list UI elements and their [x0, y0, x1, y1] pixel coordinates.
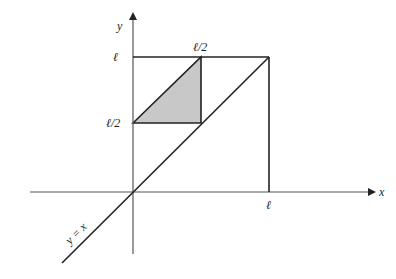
- y-tick-ell: ℓ: [113, 50, 118, 64]
- y-axis-label: y: [116, 19, 123, 33]
- y-equals-x-line: [62, 57, 269, 263]
- shaded-triangle: [133, 57, 201, 123]
- y-axis-arrow-icon: [129, 12, 137, 20]
- x-tick-ell: ℓ: [266, 198, 271, 212]
- diagram-canvas: y x ℓ ℓ/2 ℓ/2 ℓ y = x: [0, 0, 396, 279]
- x-axis-arrow-icon: [368, 188, 376, 196]
- x-axis-label: x: [378, 185, 385, 199]
- line-label: y = x: [62, 219, 91, 248]
- top-tick-half: ℓ/2: [193, 40, 207, 54]
- y-tick-half: ℓ/2: [106, 116, 120, 130]
